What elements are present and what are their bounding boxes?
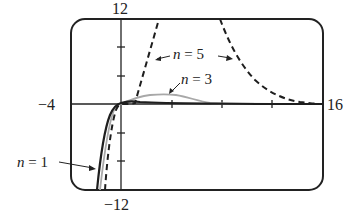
x-max-label: 16 [327,96,343,113]
label-n3-var: n [181,71,189,87]
arrowhead-n1 [89,165,96,171]
arrowhead-n5-left [155,56,161,61]
y-max-label: 12 [112,0,128,17]
y-min-label: −12 [104,196,129,213]
label-n1-var: n [17,154,25,170]
series-n3-curve [100,94,322,190]
label-n5: n = 5 [173,46,204,62]
label-n5-value: = 5 [181,46,204,62]
series-n5-curve-decay [220,19,322,104]
label-n1: n = 1 [17,154,48,170]
arrow-n1 [59,162,93,168]
arrowhead-n3 [169,88,174,94]
arrowhead-n5-right [226,55,233,61]
label-n3: n = 3 [181,71,212,87]
series-n1-curve [97,101,322,190]
chart: −4 16 12 −12 n = 5 n = 3 n = 1 [0,0,351,220]
label-n5-var: n [173,46,181,62]
label-n3-value: = 3 [189,71,212,87]
x-min-label: −4 [38,96,55,113]
label-n1-value: = 1 [25,154,48,170]
